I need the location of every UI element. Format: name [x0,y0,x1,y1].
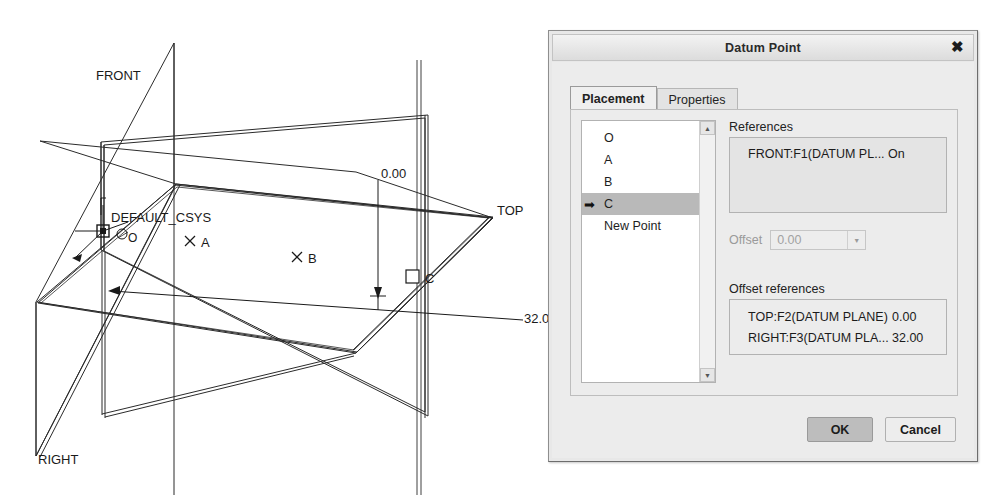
datum-point-dialog: Datum Point ✖ Placement Properties O A [548,30,978,462]
list-item-selected[interactable]: ➡ C [582,193,699,215]
point-c-marker [406,270,419,283]
front-plane-outline [101,115,428,416]
point-list-item-label: A [604,153,612,167]
offset-reference-value[interactable]: 0.00 [892,310,940,324]
tab-placement[interactable]: Placement [570,86,657,110]
lower-plane-edges [36,353,356,456]
point-list-item-label: New Point [604,219,661,233]
tabstrip: Placement Properties [570,86,958,110]
offset-references-label: Offset references [729,282,947,296]
point-c-label: C [425,271,434,286]
top-plane-label: TOP [497,203,524,218]
offset-reference-value[interactable]: 32.00 [892,331,940,345]
reference-name: FRONT:F1(DATUM PL... [748,147,888,161]
point-o-label: O [128,231,137,245]
point-list[interactable]: O A B ➡ C New Point [581,120,716,383]
list-item-new-point[interactable]: New Point [582,215,699,237]
dimension-horizontal-value[interactable]: 32.00 [524,311,548,326]
offset-reference-name: TOP:F2(DATUM PLANE) [748,310,892,324]
point-list-scrollbar[interactable]: ▲ ▼ [699,121,715,382]
bottom-plane-outline [37,414,424,457]
close-icon[interactable]: ✖ [948,37,967,56]
dialog-footer: OK Cancel [807,417,956,442]
scroll-up-icon[interactable]: ▲ [700,121,715,135]
offset-references-table[interactable]: TOP:F2(DATUM PLANE) 0.00 RIGHT:F3(DATUM … [729,299,947,355]
references-label: References [729,120,947,134]
offset-row: Offset 0.00 ▼ [729,230,947,250]
cad-model-drawing: FRONT TOP RIGHT DEFAULT_CSYS O [0,0,548,495]
dimension-vertical-0 [370,180,386,299]
placement-right-column: References FRONT:F1(DATUM PL... On Offse… [729,120,947,383]
placement-tab-page: O A B ➡ C New Point [570,109,958,396]
right-plane-lower-edge [36,302,39,456]
point-a-marker [185,236,195,246]
reference-value: On [888,147,942,161]
list-item[interactable]: A [582,149,699,171]
cad-viewport[interactable]: FRONT TOP RIGHT DEFAULT_CSYS O [0,0,548,495]
point-a-label: A [201,235,210,250]
point-list-item-label: B [604,175,612,189]
point-b-label: B [308,251,317,266]
references-table[interactable]: FRONT:F1(DATUM PL... On [729,137,947,213]
selection-arrow-icon: ➡ [584,198,595,211]
point-b-marker [292,252,302,262]
dialog-title: Datum Point [725,41,801,55]
dialog-titlebar[interactable]: Datum Point ✖ [552,34,974,61]
tab-properties[interactable]: Properties [657,88,738,110]
offset-reference-name: RIGHT:F3(DATUM PLA... [748,331,892,345]
offset-combobox[interactable]: 0.00 ▼ [770,230,866,250]
offset-label: Offset [729,233,762,247]
dialog-body: Placement Properties O A B ➡ [552,62,974,458]
point-list-items: O A B ➡ C New Point [582,121,699,382]
right-plane-label: RIGHT [38,452,79,467]
scroll-down-icon[interactable]: ▼ [700,368,715,382]
list-item[interactable]: O [582,127,699,149]
cancel-button[interactable]: Cancel [885,417,956,442]
point-list-item-label: C [604,197,613,211]
front-plane-vertical-axis [174,43,178,495]
list-item[interactable]: B [582,171,699,193]
table-row[interactable]: FRONT:F1(DATUM PL... On [730,144,946,163]
point-list-item-label: O [604,131,614,145]
table-row[interactable]: TOP:F2(DATUM PLANE) 0.00 [730,306,946,327]
dimension-horizontal-32 [108,286,523,320]
offset-references-group: Offset references TOP:F2(DATUM PLANE) 0.… [729,282,947,355]
ok-button[interactable]: OK [807,417,873,442]
front-plane-label: FRONT [96,68,141,83]
offset-value[interactable]: 0.00 [771,233,847,247]
dimension-vertical-value[interactable]: 0.00 [381,166,406,181]
table-row[interactable]: RIGHT:F3(DATUM PLA... 32.00 [730,327,946,348]
default-csys-label: DEFAULT_CSYS [111,210,212,225]
chevron-down-icon[interactable]: ▼ [847,231,865,249]
